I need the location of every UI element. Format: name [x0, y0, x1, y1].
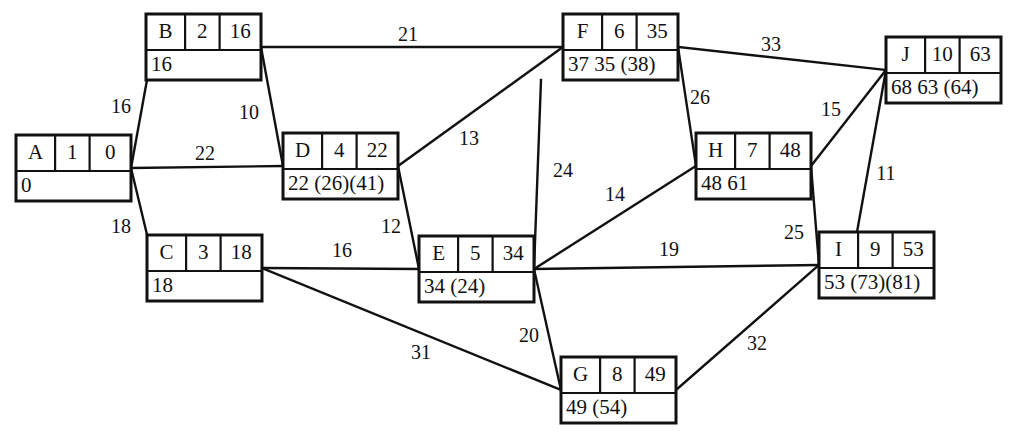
- node-value-label: 53: [903, 237, 924, 261]
- edge-label: 33: [761, 33, 781, 55]
- node-f[interactable]: F63537 35 (38): [563, 14, 678, 80]
- edge-label: 16: [111, 95, 131, 117]
- node-name-label: H: [708, 138, 723, 162]
- edge-label: 10: [239, 101, 259, 123]
- node-bottom-row-label: 53 (73)(81): [824, 270, 920, 294]
- node-bottom-row-label: 22 (26)(41): [288, 171, 384, 195]
- edge-line: [678, 47, 886, 70]
- node-name-label: I: [835, 237, 842, 261]
- node-g[interactable]: G84949 (54): [561, 357, 676, 423]
- node-name-label: C: [160, 240, 174, 264]
- node-name-label: J: [901, 42, 909, 66]
- edge-label: 13: [459, 127, 479, 149]
- node-b[interactable]: B21616: [146, 14, 261, 80]
- node-j[interactable]: J106368 63 (64): [886, 37, 1001, 103]
- node-value-label: 49: [645, 362, 666, 386]
- node-bottom-row-label: 48 61: [701, 171, 748, 195]
- edges-layer: [131, 47, 886, 390]
- node-e[interactable]: E53434 (24): [419, 236, 534, 302]
- node-value-label: 34: [503, 241, 525, 265]
- node-duration-label: 2: [197, 19, 208, 43]
- edge-line: [398, 166, 419, 269]
- node-c[interactable]: C31818: [147, 235, 262, 301]
- network-diagram-canvas: 16221821101312163124141920332615251132 A…: [0, 0, 1009, 436]
- edge-label: 18: [111, 215, 131, 237]
- edge-label: 26: [690, 86, 710, 108]
- node-bottom-row-label: 49 (54): [566, 395, 627, 419]
- node-duration-label: 7: [747, 138, 758, 162]
- node-duration-label: 9: [870, 237, 881, 261]
- node-bottom-row-label: 37 35 (38): [568, 52, 656, 76]
- node-value-label: 18: [231, 240, 252, 264]
- node-name-label: B: [159, 19, 173, 43]
- node-name-label: E: [432, 241, 445, 265]
- node-duration-label: 10: [932, 42, 953, 66]
- edge-label: 32: [747, 332, 767, 354]
- edge-label: 19: [659, 238, 679, 260]
- edge-line: [131, 166, 283, 168]
- node-value-label: 48: [780, 138, 801, 162]
- node-d[interactable]: D42222 (26)(41): [283, 133, 398, 199]
- edge-label: 14: [605, 183, 625, 205]
- edge-label: 16: [332, 239, 352, 261]
- node-name-label: F: [577, 19, 589, 43]
- node-duration-label: 5: [470, 241, 481, 265]
- node-bottom-row-label: 34 (24): [424, 274, 485, 298]
- node-value-label: 16: [230, 19, 251, 43]
- edge-label: 21: [398, 23, 418, 45]
- node-duration-label: 3: [198, 240, 209, 264]
- node-name-label: G: [573, 362, 588, 386]
- edge-label: 22: [195, 142, 215, 164]
- node-h[interactable]: H74848 61: [696, 133, 811, 199]
- network-diagram-svg: 16221821101312163124141920332615251132 A…: [0, 0, 1009, 436]
- node-bottom-row-label: 18: [152, 273, 173, 297]
- edge-label: 12: [381, 215, 401, 237]
- node-value-label: 63: [970, 42, 991, 66]
- node-value-label: 35: [647, 19, 668, 43]
- edge-label: 20: [519, 324, 539, 346]
- edge-line: [261, 47, 283, 166]
- node-bottom-row-label: 0: [21, 173, 32, 197]
- node-name-label: D: [295, 138, 310, 162]
- node-duration-label: 8: [612, 362, 623, 386]
- node-a[interactable]: A100: [16, 135, 131, 201]
- node-duration-label: 1: [67, 140, 78, 164]
- node-duration-label: 4: [334, 138, 345, 162]
- nodes-layer: A100B21616C31818D42222 (26)(41)E53434 (2…: [16, 14, 1001, 423]
- node-i[interactable]: I95353 (73)(81): [819, 232, 934, 298]
- node-name-label: A: [28, 140, 44, 164]
- edge-label: 25: [784, 221, 804, 243]
- node-value-label: 0: [105, 140, 116, 164]
- node-bottom-row-label: 68 63 (64): [891, 75, 979, 99]
- node-duration-label: 6: [614, 19, 625, 43]
- edge-line: [534, 265, 819, 269]
- node-bottom-row-label: 16: [151, 52, 172, 76]
- edge-label: 31: [411, 341, 431, 363]
- edge-label: 24: [553, 159, 573, 181]
- edge-label: 11: [876, 162, 895, 184]
- edge-label: 15: [821, 98, 841, 120]
- edge-line: [857, 70, 886, 232]
- edge-line: [676, 265, 819, 390]
- edge-line: [262, 268, 419, 269]
- node-value-label: 22: [367, 138, 388, 162]
